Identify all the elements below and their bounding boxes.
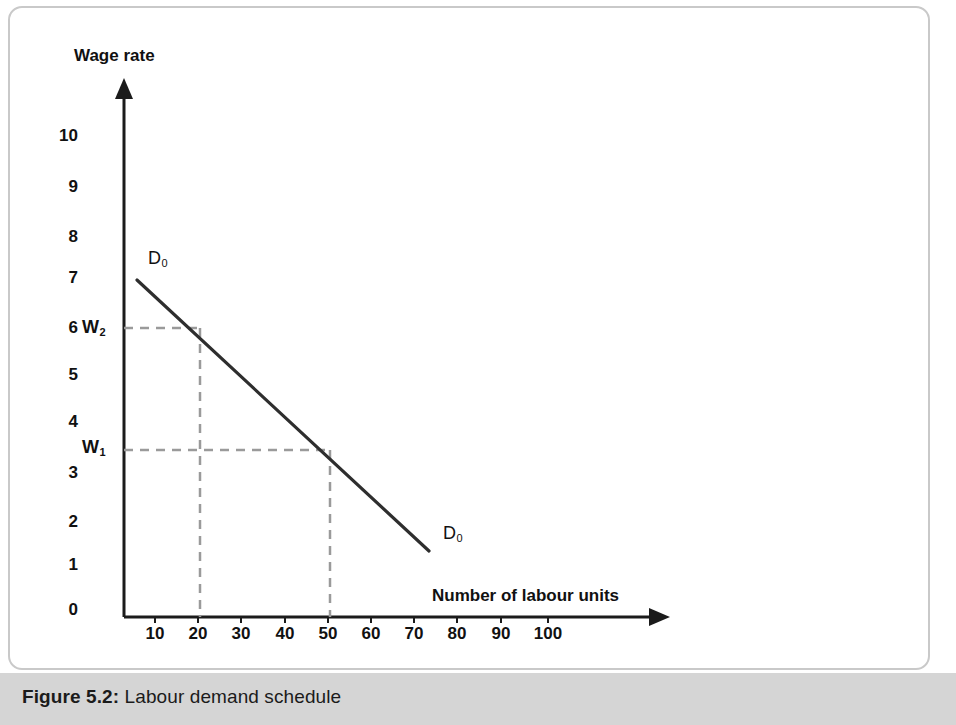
x-axis-arrow (649, 608, 670, 626)
curve-label-d0-top-subscript: 0 (162, 257, 168, 269)
x-tick-label-10: 10 (138, 624, 172, 644)
x-tick-label-40: 40 (268, 624, 302, 644)
y-tick-label-10: 10 (44, 126, 78, 146)
y-tick-label-4: 4 (44, 412, 78, 432)
y-tick-label-5: 5 (44, 365, 78, 385)
y-tick-label-3: 3 (44, 463, 78, 483)
chart-plot-area: Wage rate Number of labour units 10 9 8 … (0, 0, 956, 670)
curve-label-d0-bottom-text: D (443, 523, 456, 543)
y-axis-arrow (115, 78, 133, 99)
x-axis-title: Number of labour units (432, 586, 619, 606)
figure-container: Wage rate Number of labour units 10 9 8 … (0, 0, 956, 725)
y-tick-label-6: 6 (44, 318, 78, 338)
guide-lines-w1 (124, 450, 330, 617)
demand-curve-d0 (137, 280, 429, 551)
curve-label-d0-bottom: D0 (443, 523, 462, 544)
curve-label-d0-bottom-subscript: 0 (457, 532, 463, 544)
y-tick-label-9: 9 (44, 177, 78, 197)
wage-label-w1-text: W (82, 437, 99, 457)
y-tick-label-1: 1 (44, 555, 78, 575)
wage-label-w2: W2 (82, 317, 105, 338)
x-tick-label-30: 30 (224, 624, 258, 644)
wage-label-w2-text: W (82, 317, 99, 337)
figure-caption-label: Figure 5.2: (22, 686, 119, 707)
wage-label-w2-subscript: 2 (100, 326, 106, 338)
y-tick-label-0: 0 (44, 600, 78, 620)
chart-svg (0, 0, 956, 670)
y-tick-label-7: 7 (44, 268, 78, 288)
guide-lines-w2 (124, 328, 200, 617)
wage-label-w1-subscript: 1 (100, 446, 106, 458)
x-tick-label-80: 80 (440, 624, 474, 644)
figure-caption: Figure 5.2: Labour demand schedule (22, 686, 341, 708)
curve-label-d0-top-text: D (148, 248, 161, 268)
x-tick-label-20: 20 (181, 624, 215, 644)
y-axis-title: Wage rate (74, 46, 155, 66)
x-tick-label-100: 100 (531, 624, 565, 644)
x-tick-label-50: 50 (311, 624, 345, 644)
curve-label-d0-top: D0 (148, 248, 167, 269)
y-tick-label-8: 8 (44, 227, 78, 247)
x-tick-label-60: 60 (354, 624, 388, 644)
wage-label-w1: W1 (82, 437, 105, 458)
x-tick-label-70: 70 (397, 624, 431, 644)
y-tick-label-2: 2 (44, 512, 78, 532)
figure-caption-title: Labour demand schedule (125, 686, 342, 707)
x-tick-label-90: 90 (484, 624, 518, 644)
